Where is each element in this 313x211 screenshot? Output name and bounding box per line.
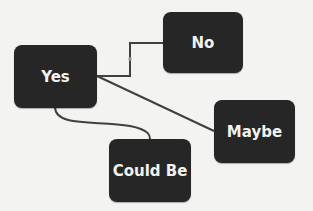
connector-handle — [128, 57, 132, 61]
node-maybe-label: Maybe — [227, 123, 282, 141]
node-maybe[interactable]: Maybe — [214, 100, 295, 163]
edge-yes-could-be — [55, 107, 150, 139]
node-no[interactable]: No — [163, 12, 243, 73]
node-yes[interactable]: Yes — [14, 45, 97, 108]
node-could-be-label: Could Be — [113, 162, 188, 180]
node-no-label: No — [192, 34, 215, 52]
edge-yes-maybe — [97, 76, 214, 131]
node-could-be[interactable]: Could Be — [109, 139, 191, 202]
node-yes-label: Yes — [41, 68, 70, 86]
